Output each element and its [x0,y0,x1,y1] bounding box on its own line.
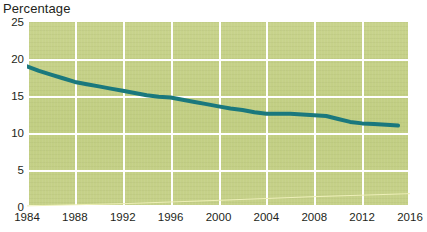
x-tick-2000: 2000 [206,211,232,223]
y-tick-15: 15 [0,90,24,102]
plot-area [27,22,410,207]
x-tick-1988: 1988 [62,211,88,223]
x-tick-2008: 2008 [301,211,327,223]
y-axis-title: Percentage [3,1,71,16]
series-line-baseline-trace [27,194,410,206]
x-tick-1996: 1996 [158,211,184,223]
y-tick-5: 5 [0,164,24,176]
x-tick-1984: 1984 [14,211,40,223]
x-tick-2004: 2004 [254,211,280,223]
y-tick-20: 20 [0,53,24,65]
series-line-Percentage [27,66,398,125]
x-tick-2016: 2016 [397,211,423,223]
x-tick-2012: 2012 [349,211,375,223]
chart-figure: Percentage 0510152025 198419881992199620… [0,0,427,232]
series-layer [27,22,410,207]
x-tick-1992: 1992 [110,211,136,223]
y-tick-25: 25 [0,16,24,28]
y-tick-10: 10 [0,127,24,139]
